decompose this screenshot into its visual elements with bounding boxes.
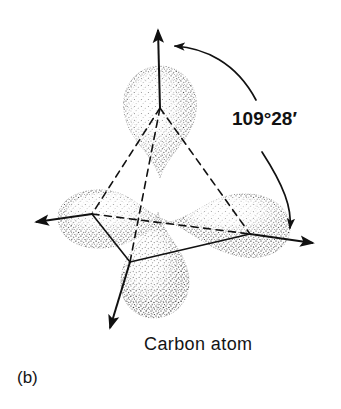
figure-part-label: (b) bbox=[17, 368, 38, 388]
figure-caption: Carbon atom bbox=[144, 334, 252, 355]
figure-sp3-carbon-atom: 109°28′ Carbon atom (b) bbox=[0, 0, 341, 409]
bond-angle-label: 109°28′ bbox=[232, 108, 297, 130]
